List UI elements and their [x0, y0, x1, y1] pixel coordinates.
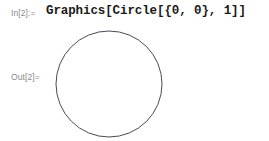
notebook-canvas: In[2]:= Graphics[Circle[{0, 0}, 1]] Out[… — [0, 0, 269, 141]
output-cell-label: Out[2]= — [11, 72, 40, 82]
circle-shape — [56, 31, 162, 137]
circle-plot — [46, 22, 174, 141]
input-cell-label: In[2]:= — [11, 8, 36, 18]
input-code-text[interactable]: Graphics[Circle[{0, 0}, 1]] — [46, 4, 246, 19]
output-graphics-cell[interactable] — [46, 22, 174, 141]
